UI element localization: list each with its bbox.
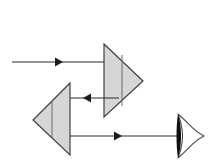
optics-canvas <box>0 0 209 163</box>
optical-ray-diagram <box>0 0 209 163</box>
